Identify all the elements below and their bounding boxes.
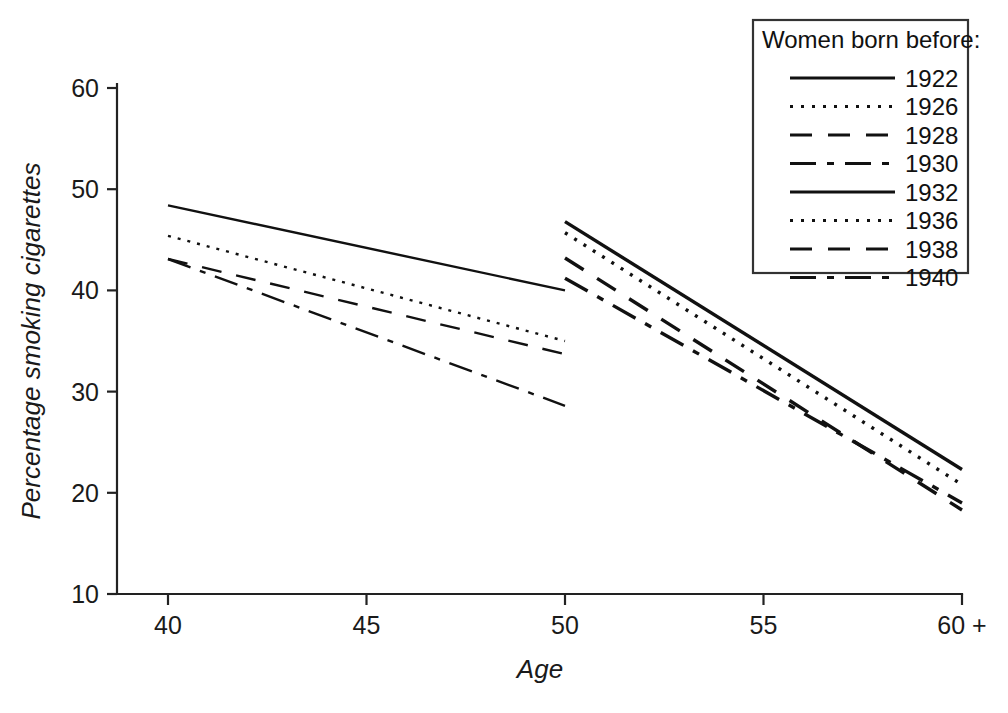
series-line-1930 — [168, 259, 565, 406]
x-tick-label: 55 — [750, 611, 778, 639]
x-tick-label: 40 — [154, 611, 182, 639]
x-tick-label: 50 — [551, 611, 579, 639]
legend-label-1938: 1938 — [905, 236, 958, 263]
legend-label-1936: 1936 — [905, 207, 958, 234]
x-axis-title: Age — [515, 654, 563, 684]
y-tick-label: 50 — [71, 175, 99, 203]
x-axis-ticks: 4045505560 + — [154, 594, 987, 639]
legend-title: Women born before: — [762, 26, 980, 53]
series-line-1922 — [168, 205, 565, 290]
series-line-1928 — [168, 259, 565, 354]
x-tick-label: 60 + — [937, 611, 986, 639]
smoking-by-birth-cohort-line-chart: 102030405060 4045505560 + Age Percentage… — [0, 0, 1008, 713]
chart-container: 102030405060 4045505560 + Age Percentage… — [0, 0, 1008, 713]
y-tick-label: 10 — [71, 580, 99, 608]
series-line-1926 — [168, 236, 565, 341]
x-tick-label: 45 — [353, 611, 381, 639]
legend-label-1932: 1932 — [905, 179, 958, 206]
legend-label-1922: 1922 — [905, 65, 958, 92]
y-axis-ticks: 102030405060 — [71, 74, 117, 608]
y-tick-label: 20 — [71, 479, 99, 507]
y-axis-title: Percentage smoking cigarettes — [16, 163, 46, 520]
y-tick-label: 30 — [71, 378, 99, 406]
series-line-1940 — [565, 278, 962, 503]
legend-label-1940: 1940 — [905, 264, 958, 291]
series-line-1938 — [565, 258, 962, 510]
legend-label-1926: 1926 — [905, 93, 958, 120]
y-tick-label: 40 — [71, 276, 99, 304]
legend-label-1928: 1928 — [905, 122, 958, 149]
y-tick-label: 60 — [71, 74, 99, 102]
legend-label-1930: 1930 — [905, 150, 958, 177]
chart-legend: Women born before: 192219261928193019321… — [753, 20, 980, 291]
